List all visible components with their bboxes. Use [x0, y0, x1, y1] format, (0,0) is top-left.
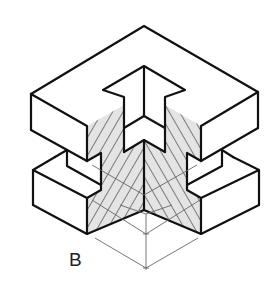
- lower-right-notch-top: [222, 150, 233, 157]
- isometric-drawing: B: [0, 0, 276, 287]
- dim-left-2: [95, 238, 146, 268]
- top-slab-left-front: [31, 94, 87, 161]
- lower-right-step: [187, 153, 201, 198]
- lower-left-notch-top: [55, 150, 67, 157]
- lower-left-step: [87, 153, 101, 198]
- figure-label: B: [69, 250, 82, 269]
- drawing-canvas: [0, 0, 276, 287]
- lower-right-block: [201, 157, 259, 198]
- lower-left-block: [33, 157, 87, 198]
- top-slab-right-front: [201, 92, 258, 161]
- notch-floor: [124, 116, 165, 128]
- block-outline: [31, 26, 259, 234]
- dim-right-2: [146, 238, 198, 268]
- top-slab-left-bottom: [31, 130, 87, 161]
